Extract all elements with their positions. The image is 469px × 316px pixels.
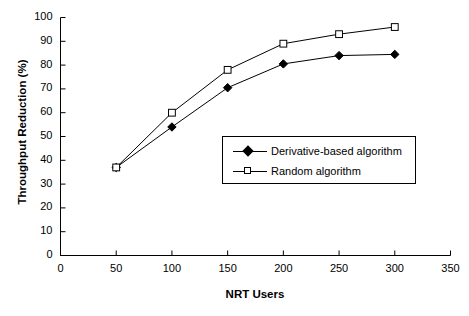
x-tick-label: 200 (263, 262, 303, 274)
x-tick-label: 50 (96, 262, 136, 274)
legend-marker-open-square-icon (233, 164, 267, 178)
legend-label: Derivative-based algorithm (267, 145, 402, 157)
x-tick-label: 350 (431, 262, 469, 274)
y-tick-label: 50 (23, 129, 53, 141)
legend-item-derivative-based-algorithm: Derivative-based algorithm (233, 142, 402, 160)
legend-label: Random algorithm (267, 165, 361, 177)
legend-item-random-algorithm: Random algorithm (233, 162, 361, 180)
y-tick-label: 80 (23, 58, 53, 70)
x-tick-label: 150 (208, 262, 248, 274)
y-tick-label: 40 (23, 153, 53, 165)
x-tick-label: 0 (41, 262, 81, 274)
y-tick-label: 0 (23, 248, 53, 260)
chart-legend: Derivative-based algorithm Random algori… (222, 136, 416, 184)
y-tick-label: 60 (23, 105, 53, 117)
x-tick-label: 100 (152, 262, 192, 274)
chart-figure: Throughput Reduction (%) NRT Users 05010… (0, 0, 469, 316)
y-tick-label: 30 (23, 177, 53, 189)
y-tick-label: 20 (23, 200, 53, 212)
y-tick-label: 70 (23, 81, 53, 93)
y-tick-label: 90 (23, 34, 53, 46)
y-tick-label: 100 (23, 10, 53, 22)
x-tick-label: 300 (375, 262, 415, 274)
x-tick-label: 250 (319, 262, 359, 274)
legend-marker-filled-diamond-icon (233, 144, 267, 158)
y-tick-label: 10 (23, 224, 53, 236)
